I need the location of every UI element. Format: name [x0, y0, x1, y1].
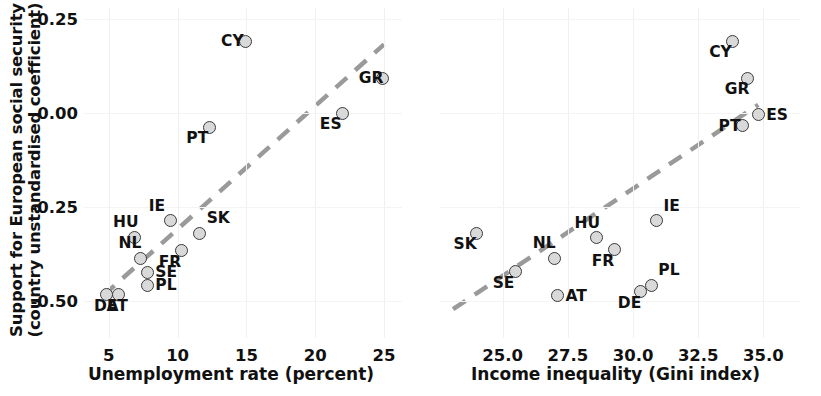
x-axis-tick-label: 15	[235, 346, 258, 365]
point-label-hu: HU	[575, 216, 601, 232]
point-label-hu: HU	[113, 215, 139, 231]
plot-area-gini: 25.027.530.032.535.0CYGRESPTIESKHUFRNLSE…	[440, 8, 800, 338]
panel-unemployment: 0.250.00-0.25-0.50510152025CYGRESPTIESKH…	[52, 0, 410, 396]
gridline-vertical	[763, 8, 764, 338]
scatter-point-nl[interactable]	[134, 252, 147, 265]
scatter-point-sk[interactable]	[193, 227, 206, 240]
x-axis-title-gini: Income inequality (Gini index)	[410, 364, 821, 384]
x-axis-tick-label: 20	[304, 346, 327, 365]
gridline-horizontal	[84, 19, 402, 20]
point-label-gr: GR	[725, 82, 750, 98]
y-axis-title-line2: (country unstandardised coefficient)	[26, 3, 44, 338]
gridline-vertical	[178, 8, 179, 338]
y-axis-tick-label: -0.50	[30, 291, 78, 310]
scatter-point-se[interactable]	[141, 266, 154, 279]
gridline-horizontal	[84, 301, 402, 302]
point-label-sk: SK	[207, 211, 230, 227]
point-label-ie: IE	[664, 199, 680, 215]
y-axis-tick-label: -0.25	[30, 197, 78, 216]
scatter-point-nl[interactable]	[548, 252, 561, 265]
scatter-point-at[interactable]	[551, 289, 564, 302]
gridline-vertical	[384, 8, 385, 338]
x-axis-tick-label: 32.5	[678, 346, 719, 365]
gridline-horizontal	[84, 113, 402, 114]
y-axis-tick-label: 0.00	[37, 104, 78, 123]
scatter-point-hu[interactable]	[590, 231, 603, 244]
x-axis-tick-label: 27.5	[547, 346, 588, 365]
gridline-horizontal	[440, 113, 800, 114]
x-axis-tick-label: 10	[166, 346, 189, 365]
point-label-at: AT	[565, 289, 586, 305]
y-axis-title: Support for European social security (co…	[0, 0, 52, 340]
point-label-cy: CY	[221, 34, 244, 50]
point-label-pt: PT	[186, 131, 208, 147]
scatter-point-ie[interactable]	[164, 214, 177, 227]
x-axis-tick-label: 25	[373, 346, 396, 365]
gridline-vertical	[698, 8, 699, 338]
y-axis-title-line1: Support for European social security	[8, 3, 26, 338]
point-label-gr: GR	[359, 71, 384, 87]
figure-root: Support for European social security (co…	[0, 0, 821, 396]
x-axis-tick-label: 30.0	[613, 346, 654, 365]
gridline-vertical	[315, 8, 316, 338]
plot-area-unemployment: 0.250.00-0.25-0.50510152025CYGRESPTIESKH…	[84, 8, 402, 338]
x-axis-title-unemployment: Unemployment rate (percent)	[52, 364, 410, 384]
scatter-point-es[interactable]	[752, 108, 765, 121]
point-label-pl: PL	[155, 278, 176, 294]
point-label-es: ES	[766, 108, 788, 124]
panel-gini: 25.027.530.032.535.0CYGRESPTIESKHUFRNLSE…	[410, 0, 821, 396]
scatter-point-ie[interactable]	[650, 214, 663, 227]
trendline-unemployment	[84, 8, 402, 338]
point-label-at: AT	[106, 299, 127, 315]
gridline-horizontal	[440, 207, 800, 208]
x-axis-tick-label: 25.0	[482, 346, 523, 365]
x-axis-tick-label: 5	[103, 346, 114, 365]
y-axis-tick-label: 0.25	[37, 10, 78, 29]
point-label-de: DE	[618, 296, 641, 312]
point-label-sk: SK	[454, 237, 477, 253]
gridline-horizontal	[84, 207, 402, 208]
point-label-es: ES	[320, 117, 342, 133]
point-label-nl: NL	[533, 236, 556, 252]
point-label-pt: PT	[719, 119, 741, 135]
x-axis-tick-label: 35.0	[743, 346, 784, 365]
point-label-pl: PL	[658, 263, 679, 279]
point-label-se: SE	[493, 276, 515, 292]
gridline-vertical	[246, 8, 247, 338]
gridline-horizontal	[440, 19, 800, 20]
point-label-ie: IE	[149, 199, 165, 215]
point-label-fr: FR	[592, 254, 615, 270]
scatter-point-pl[interactable]	[141, 279, 154, 292]
point-label-cy: CY	[709, 45, 732, 61]
point-label-nl: NL	[118, 236, 141, 252]
